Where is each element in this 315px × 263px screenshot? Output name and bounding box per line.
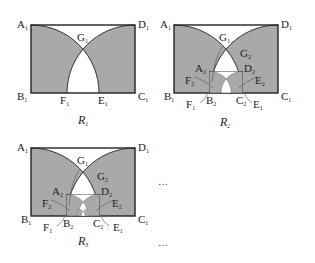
label-f1: F1 bbox=[60, 94, 69, 107]
label-b1: B1 bbox=[164, 90, 174, 103]
label-c1: C1 bbox=[281, 90, 291, 103]
label-g1: G1 bbox=[219, 31, 230, 44]
label-b2: B2 bbox=[63, 217, 73, 230]
label-d1: D1 bbox=[281, 18, 292, 31]
label-a1: A1 bbox=[160, 18, 171, 31]
label-e1: E1 bbox=[253, 98, 263, 111]
label-c1: C1 bbox=[138, 90, 148, 103]
sequence-figure: A1 D1 B1 C1 G1 F1 E1 R1 A1 D1 B1 C1 G1 G… bbox=[0, 0, 315, 263]
label-f1: F1 bbox=[186, 98, 195, 111]
ellipsis-row: … bbox=[158, 176, 168, 187]
label-e1: E1 bbox=[113, 221, 123, 234]
label-e1: E1 bbox=[98, 94, 108, 107]
label-b1: B1 bbox=[17, 90, 27, 103]
caption-r2: R2 bbox=[219, 115, 230, 129]
ellipsis-caption: … bbox=[158, 237, 168, 248]
label-a1: A1 bbox=[17, 18, 28, 31]
label-g1: G1 bbox=[77, 154, 88, 167]
label-c1: C1 bbox=[138, 213, 148, 226]
caption-r1: R1 bbox=[77, 113, 88, 127]
label-a1: A1 bbox=[17, 141, 28, 154]
label-c2: C2 bbox=[236, 94, 246, 107]
label-f1: F1 bbox=[43, 221, 52, 234]
label-b2: B2 bbox=[206, 94, 216, 107]
label-c2: C2 bbox=[93, 217, 103, 230]
label-g1: G1 bbox=[77, 31, 88, 44]
label-d1: D1 bbox=[138, 18, 149, 31]
label-d1: D1 bbox=[138, 141, 149, 154]
caption-r3: R3 bbox=[77, 234, 88, 248]
label-b1: B1 bbox=[21, 213, 31, 226]
